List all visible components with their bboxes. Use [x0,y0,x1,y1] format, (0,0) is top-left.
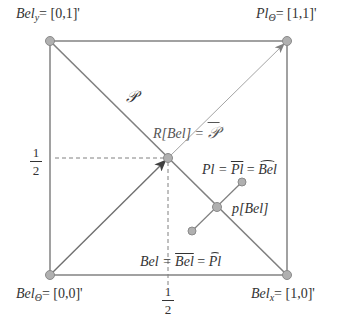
vertex-bel-theta [46,271,55,280]
belief-space-diagram [0,0,340,327]
vertex-bel-x [283,271,292,280]
point-bel [188,227,196,235]
point-p-bel [213,203,222,212]
point-relative-belief [164,154,173,163]
label-belief: Bel = Bel = Pl [140,255,221,269]
vertex-bel-y [46,37,55,46]
label-bel-y: Bely= [0,1]' [16,7,80,21]
label-pl-theta: PlΘ= [1,1]' [256,7,316,21]
label-relative-belief: R[Bel] = 𝒫 [153,125,220,141]
label-probability-simplex: 𝒫 [126,89,138,105]
label-half-x: 12 [162,285,174,316]
label-p-bel: p[Bel] [232,202,269,216]
vertex-pl-theta [283,37,292,46]
label-half-y: 12 [30,146,42,177]
label-plausibility: Pl = Pl = Bel [202,163,277,177]
point-pl [238,178,246,186]
label-bel-theta: BelΘ= [0,0]' [16,287,83,301]
label-bel-x: Belx= [1,0]' [251,287,315,301]
